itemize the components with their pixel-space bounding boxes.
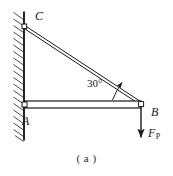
figure-caption: ( a ) [0,152,173,164]
label-joint-b: B [151,106,158,118]
pin-joint-a [22,102,27,107]
figure-container: C A B 30° FP ( a ) [0,0,173,176]
label-joint-a: A [22,115,29,127]
label-force-fp: FP [148,127,160,141]
pin-joint-b [139,102,144,107]
force-subscript: P [156,132,160,141]
label-angle-30: 30° [87,78,102,89]
diagonal-member-cb [25,26,141,105]
horizontal-beam-ab [26,101,142,108]
force-symbol: F [148,126,155,140]
label-joint-c: C [35,10,43,22]
pin-joint-c [22,24,27,29]
